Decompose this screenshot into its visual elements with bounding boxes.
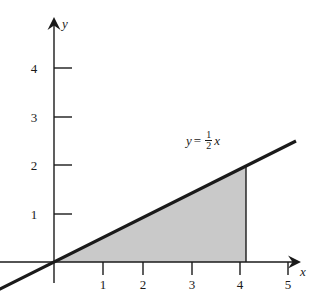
x-tick-label-1: 1 [95,278,111,291]
x-tick-label-3: 3 [184,278,200,291]
equation-equals-sign: = [194,134,201,147]
y-tick-label-4: 4 [26,62,42,75]
y-tick-label-2: 2 [26,159,42,172]
fraction-numerator: 1 [205,130,212,140]
equation-label: y = 1 2 x [186,130,220,151]
x-axis-label: x [300,265,306,278]
fraction-denominator: 2 [205,140,212,151]
y-axis-label: y [62,17,68,30]
function-line [0,141,296,292]
x-tick-label-4: 4 [232,278,248,291]
x-tick-label-2: 2 [135,278,151,291]
equation-fraction-one-half: 1 2 [205,130,212,151]
x-axis-ticks [103,262,288,275]
equation-lhs: y [186,134,192,147]
y-tick-label-1: 1 [26,208,42,221]
x-tick-label-5: 5 [280,278,296,291]
y-tick-label-3: 3 [26,111,42,124]
equation-variable: x [214,134,220,147]
y-axis-ticks [54,68,72,214]
graph-canvas [0,0,309,298]
